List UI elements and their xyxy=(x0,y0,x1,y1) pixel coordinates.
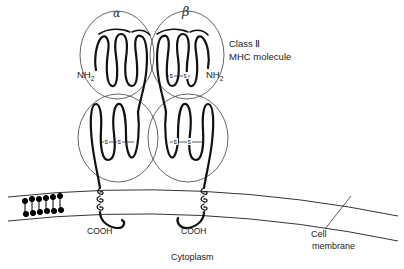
membrane-label-line1: Cell xyxy=(311,229,327,239)
nh2-right-label: NH2 xyxy=(206,69,224,82)
disulfide-s: s xyxy=(170,72,174,79)
beta-label: β xyxy=(181,4,190,19)
disulfide-s: s xyxy=(188,138,192,145)
disulfide-s: s xyxy=(174,138,178,145)
nh2-left-label: NH2 xyxy=(77,69,95,82)
disulfide-bonds xyxy=(101,76,203,142)
lipid-bilayer-icon xyxy=(22,193,63,216)
beta-chain xyxy=(157,29,213,228)
membrane-pointer xyxy=(325,196,351,229)
alpha-label: α xyxy=(113,7,121,20)
disulfide-s: s xyxy=(105,138,109,145)
alpha-chain xyxy=(91,29,150,228)
title-line1: Class Ⅱ xyxy=(229,38,260,49)
title-line2: MHC molecule xyxy=(229,51,291,62)
mhc-class-ii-diagram: s s s s s s α β NH2 NH2 Class Ⅱ MHC mole… xyxy=(0,0,404,269)
domain-outlines xyxy=(78,11,228,182)
cytoplasm-label: Cytoplasm xyxy=(171,252,214,262)
cooh-right-label: COOH xyxy=(181,226,207,236)
disulfide-s: s xyxy=(118,138,122,145)
disulfide-s: s xyxy=(184,72,188,79)
membrane-label-line2: membrane xyxy=(312,241,355,251)
cooh-left-label: COOH xyxy=(87,226,113,236)
